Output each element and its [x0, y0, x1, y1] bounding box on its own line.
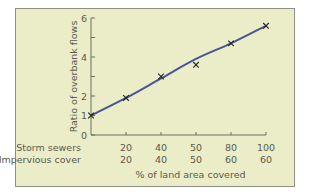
y-tick-label: 2	[81, 91, 87, 102]
y-axis-title: Ratio of overbank flows	[68, 21, 79, 133]
x-tick-label: 20	[120, 154, 132, 165]
x-tick-label: 60	[260, 154, 272, 165]
y-tick-label: 6	[81, 13, 87, 24]
x-axis-title: % of land area covered	[135, 169, 245, 180]
y-tick-label: 1	[81, 110, 87, 121]
x-row-label: Storm sewers	[16, 142, 81, 153]
x-tick-label: 50	[190, 154, 202, 165]
x-tick-label: 20	[120, 142, 132, 153]
chart-svg: 02461Storm sewers20405080100Impervious c…	[0, 0, 310, 194]
x-tick-label: 50	[190, 142, 202, 153]
x-tick-label: 40	[155, 154, 167, 165]
data-point-marker	[193, 62, 199, 68]
x-tick-label: 40	[155, 142, 167, 153]
x-row-label: Impervious cover	[0, 154, 81, 165]
x-tick-label: 80	[225, 142, 237, 153]
x-tick-label: 60	[225, 154, 237, 165]
y-tick-label: 4	[81, 52, 87, 63]
y-tick-label: 0	[81, 130, 87, 141]
fitted-curve	[91, 26, 266, 116]
x-tick-label: 100	[257, 142, 275, 153]
